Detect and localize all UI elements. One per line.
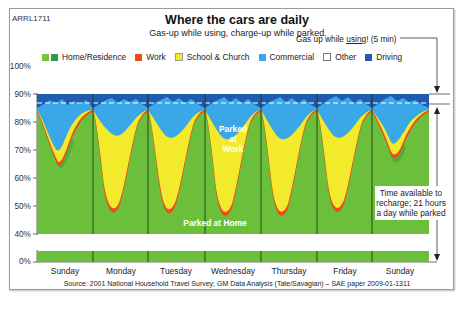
xlabel-thursday: Thursday xyxy=(261,266,317,276)
parked-at-work-line-3: Work xyxy=(208,144,258,154)
recharge-line-1: Time available to xyxy=(375,188,447,198)
arrow-down-icon xyxy=(434,86,440,93)
parked-at-home-label: Parked at Home xyxy=(160,218,270,228)
xlabel-wednesday: Wednesday xyxy=(205,266,261,276)
xlabel-sunday: Sunday xyxy=(37,266,93,276)
gas-up-pointer xyxy=(400,38,437,88)
parked-at-work-line-1: Parked xyxy=(208,124,258,134)
xlabel-tuesday: Tuesday xyxy=(148,266,204,276)
recharge-line-2: recharge; 21 hours xyxy=(375,198,447,208)
arrow-up-icon xyxy=(434,107,440,114)
lower-segment xyxy=(37,251,429,262)
recharge-annotation: Time available to recharge; 21 hours a d… xyxy=(375,186,447,220)
source-note: Source: 2001 National Household Travel S… xyxy=(0,280,456,287)
plot-area xyxy=(37,94,429,234)
parked-at-work-label: Parked at Work xyxy=(208,124,258,154)
recharge-line-3: a day while parked xyxy=(375,208,447,218)
parked-at-work-line-2: at xyxy=(208,134,258,144)
ytick-40: 40% xyxy=(3,229,31,239)
xlabel-sunday-2: Sunday xyxy=(372,266,428,276)
axis-break xyxy=(33,235,433,250)
xlabel-monday: Monday xyxy=(93,266,149,276)
xlabel-friday: Friday xyxy=(317,266,373,276)
arrow-down-icon xyxy=(434,254,440,261)
